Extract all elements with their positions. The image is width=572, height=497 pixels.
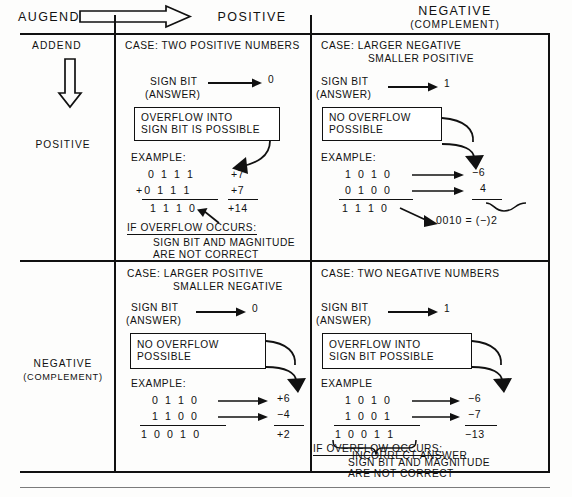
operand2-arrow-icon bbox=[412, 411, 464, 423]
footer-line-2: SIGN BIT AND MAGNITUDE bbox=[348, 457, 490, 468]
table-divider-middle bbox=[310, 15, 312, 471]
overflow-callout-line1: OVERFLOW INTO bbox=[329, 339, 465, 352]
case-title: CASE: TWO NEGATIVE NUMBERS bbox=[321, 268, 500, 279]
operand2-decimal: 4 bbox=[480, 182, 487, 194]
case-title-line2: SMALLER POSITIVE bbox=[368, 53, 474, 64]
sign-bit-value: 0 bbox=[252, 303, 258, 314]
caption-rule bbox=[20, 487, 550, 488]
footer-line-3: ARE NOT CORRECT bbox=[348, 468, 454, 479]
overflow-callout: OVERFLOW INTO SIGN BIT IS POSSIBLE bbox=[134, 107, 280, 141]
footer-line-2: SIGN BIT AND MAGNITUDE bbox=[153, 237, 295, 248]
footer-line-3: ARE NOT CORRECT bbox=[153, 249, 259, 260]
operand1-binary: 0 1 1 0 bbox=[152, 394, 199, 406]
operand1-binary: 1 0 1 0 bbox=[345, 168, 392, 180]
overflow-callout-line1: NO OVERFLOW bbox=[137, 339, 259, 352]
operand2-decimal: −4 bbox=[277, 408, 290, 420]
operand1-decimal: −6 bbox=[468, 392, 481, 404]
sign-bit-label: SIGN BIT bbox=[321, 76, 369, 87]
case-title: CASE: TWO POSITIVE NUMBERS bbox=[125, 40, 300, 51]
operand1-binary: 1 0 1 0 bbox=[345, 394, 392, 406]
operand2-binary: +0 1 1 1 bbox=[136, 184, 191, 196]
row-header-positive: POSITIVE bbox=[14, 139, 112, 150]
sum-squiggle-icon bbox=[486, 200, 528, 214]
example-label: EXAMPLE: bbox=[131, 378, 186, 389]
operand2-binary: 1 1 0 0 bbox=[152, 410, 199, 422]
sum-binary: 1 1 1 0 bbox=[150, 202, 197, 214]
sign-bit-arrow-icon bbox=[208, 76, 268, 90]
sum-rule-decimal bbox=[465, 425, 497, 426]
example-label: EXAMPLE: bbox=[131, 152, 186, 163]
sign-bit-value: 1 bbox=[444, 78, 450, 89]
footer-condition: IF OVERFLOW OCCURS: bbox=[313, 443, 443, 456]
block-arrow-down-icon bbox=[57, 57, 83, 109]
table-rule-bottom bbox=[20, 471, 550, 473]
operand1-binary: 0 1 1 1 bbox=[148, 168, 195, 180]
overflow-callout: NO OVERFLOW POSSIBLE bbox=[130, 333, 266, 369]
augend-label: AUGEND bbox=[18, 10, 80, 24]
sign-bit-value: 1 bbox=[444, 303, 450, 314]
operand2-binary: 0 1 0 0 bbox=[345, 184, 392, 196]
overflow-callout: NO OVERFLOW POSSIBLE bbox=[322, 107, 442, 141]
operand1-arrow-icon bbox=[412, 169, 468, 181]
callout-pointer-arrow-icon bbox=[264, 335, 328, 395]
sign-bit-sublabel: (ANSWER) bbox=[316, 315, 372, 326]
sign-bit-arrow-icon bbox=[388, 80, 444, 94]
operand2-arrow-icon bbox=[218, 411, 272, 423]
addend-label: ADDEND bbox=[32, 40, 82, 51]
sign-bit-sublabel: (ANSWER) bbox=[126, 315, 182, 326]
sign-bit-sublabel: (ANSWER) bbox=[316, 89, 372, 100]
overflow-callout: OVERFLOW INTO SIGN BIT POSSIBLE bbox=[322, 333, 472, 369]
footer-condition: IF OVERFLOW OCCURS: bbox=[127, 222, 257, 235]
sum-rule-binary bbox=[339, 199, 413, 200]
sign-bit-arrow-icon bbox=[388, 305, 444, 319]
callout-pointer-arrow-icon bbox=[470, 335, 536, 395]
sum-decimal: +2 bbox=[277, 428, 290, 440]
operand1-decimal: −6 bbox=[472, 166, 485, 178]
overflow-callout-line2: POSSIBLE bbox=[137, 351, 259, 364]
row-header-negative-sub: (COMPLEMENT) bbox=[14, 372, 112, 382]
sum-decimal: +14 bbox=[228, 202, 248, 214]
case-title: CASE: LARGER POSITIVE bbox=[127, 268, 264, 279]
operand2-arrow-icon bbox=[412, 185, 468, 197]
row-header-negative: NEGATIVE bbox=[14, 358, 112, 369]
overflow-callout-line2: SIGN BIT POSSIBLE bbox=[329, 351, 465, 364]
operand1-decimal: +6 bbox=[277, 392, 290, 404]
overflow-callout-line2: SIGN BIT IS POSSIBLE bbox=[141, 124, 273, 137]
table-divider-left bbox=[114, 15, 116, 471]
case-title: CASE: LARGER NEGATIVE bbox=[321, 40, 461, 51]
block-arrow-right-icon bbox=[78, 5, 194, 29]
case-title-line2: SMALLER NEGATIVE bbox=[173, 281, 283, 292]
operand2-binary: 1 0 0 1 bbox=[345, 410, 392, 422]
operand1-decimal: +7 bbox=[231, 168, 244, 180]
overflow-callout-line1: NO OVERFLOW bbox=[329, 112, 435, 125]
operand1-arrow-icon bbox=[218, 395, 272, 407]
example-label: EXAMPLE bbox=[321, 378, 373, 389]
sum-rule-binary bbox=[142, 199, 218, 200]
column-header-positive: POSITIVE bbox=[196, 10, 308, 24]
sign-bit-sublabel: (ANSWER) bbox=[145, 89, 201, 100]
complement-note: 0010 = (−)2 bbox=[436, 214, 497, 226]
sum-binary: 1 1 1 0 bbox=[342, 202, 389, 214]
sign-bit-label: SIGN BIT bbox=[131, 302, 179, 313]
table-rule-header bbox=[20, 33, 550, 35]
sum-rule-decimal bbox=[274, 425, 304, 426]
callout-pointer-arrow-icon bbox=[440, 110, 506, 172]
column-header-negative: NEGATIVE bbox=[380, 4, 530, 18]
table-rule-middle bbox=[20, 260, 550, 262]
sum-rule-binary bbox=[334, 425, 420, 426]
column-header-negative-sub: (COMPLEMENT) bbox=[380, 19, 530, 30]
operand1-arrow-icon bbox=[412, 395, 464, 407]
operand2-decimal: +7 bbox=[231, 184, 244, 196]
overflow-callout-line1: OVERFLOW INTO bbox=[141, 112, 273, 125]
table-edge-right bbox=[548, 33, 550, 471]
sum-rule-decimal bbox=[228, 199, 258, 200]
sum-decimal: −13 bbox=[465, 428, 485, 440]
sign-bit-value: 0 bbox=[268, 74, 274, 85]
sign-bit-label: SIGN BIT bbox=[150, 76, 198, 87]
overflow-callout-line2: POSSIBLE bbox=[329, 124, 435, 137]
sum-binary: 1 0 0 1 0 bbox=[141, 428, 201, 440]
sum-binary: 1 0 0 1 1 bbox=[335, 428, 395, 440]
sum-rule-binary bbox=[140, 425, 226, 426]
example-label: EXAMPLE: bbox=[321, 152, 376, 163]
diagram-sheet: AUGEND POSITIVE NEGATIVE (COMPLEMENT) AD… bbox=[0, 0, 572, 497]
